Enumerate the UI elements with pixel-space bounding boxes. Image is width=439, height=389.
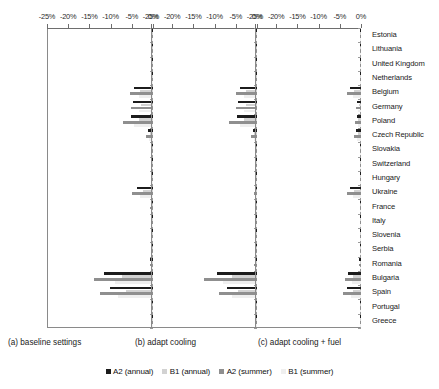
- bar-group: [255, 214, 361, 228]
- country-label: Ukraine: [372, 187, 397, 196]
- bar-group: [255, 285, 361, 299]
- country-label: France: [372, 202, 395, 211]
- figure-root: -25%-20%-15%-10%-5%0% -25%-20%-15%-10%-5…: [0, 0, 439, 389]
- country-label: Portugal: [372, 302, 399, 311]
- bar: [358, 110, 361, 113]
- country-label: Bulgaria: [372, 273, 399, 282]
- bar-group: [151, 157, 257, 171]
- bar-group: [47, 257, 153, 271]
- bar-group: [255, 28, 361, 42]
- legend-label: B1 (annual): [170, 367, 210, 376]
- legend-item: B1 (annual): [162, 367, 210, 376]
- bar-group: [47, 42, 153, 56]
- bar-group: [255, 42, 361, 56]
- legend-swatch-icon: [162, 369, 167, 374]
- legend-item: B1 (summer): [281, 367, 334, 376]
- bar-group: [151, 128, 257, 142]
- bar: [115, 281, 153, 284]
- category-tick: [150, 328, 153, 329]
- bar: [352, 281, 361, 284]
- bar: [360, 310, 361, 313]
- legend-label: A2 (annual): [113, 367, 153, 376]
- bar-group: [47, 57, 153, 71]
- bar-group: [47, 114, 153, 128]
- x-axis-tick-label: -15%: [81, 12, 97, 21]
- bar: [360, 67, 361, 70]
- bar-group: [151, 85, 257, 99]
- bar-group: [151, 114, 257, 128]
- legend-swatch-icon: [219, 369, 224, 374]
- legend-item: A2 (annual): [106, 367, 154, 376]
- country-axis-labels: EstoniaLithuaniaUnited KingdomNetherland…: [372, 28, 439, 328]
- bar-group: [47, 299, 153, 313]
- bar-group: [151, 57, 257, 71]
- country-label: Estonia: [372, 30, 397, 39]
- bar-group: [255, 128, 361, 142]
- country-label: Spain: [372, 287, 391, 296]
- x-axis-tick-label: -25%: [143, 12, 159, 21]
- country-label: Hungary: [372, 173, 400, 182]
- bar: [357, 138, 361, 141]
- bar: [360, 253, 361, 256]
- bar: [360, 238, 361, 241]
- bar-group: [151, 214, 257, 228]
- bar-group: [151, 185, 257, 199]
- bar-group: [255, 142, 361, 156]
- bar-group: [47, 285, 153, 299]
- bar-group: [47, 171, 153, 185]
- x-axis-tick-label: -15%: [289, 12, 305, 21]
- bar-group: [47, 214, 153, 228]
- country-label: Poland: [372, 116, 395, 125]
- bar-group: [151, 299, 257, 313]
- bar-group: [47, 128, 153, 142]
- bar-group: [255, 299, 361, 313]
- bar: [351, 295, 361, 298]
- caption-panel-b: (b) adapt cooling: [135, 338, 196, 347]
- bar: [360, 181, 361, 184]
- country-label: Romania: [372, 259, 402, 268]
- bar-group: [47, 157, 153, 171]
- x-axis-tick-label: -5%: [126, 12, 139, 21]
- bar-group: [47, 199, 153, 213]
- panel-baseline-settings: -25%-20%-15%-10%-5%0%: [47, 28, 153, 328]
- country-label: Serbia: [372, 244, 393, 253]
- bar: [232, 295, 257, 298]
- country-label: Belgium: [372, 87, 399, 96]
- category-tick: [358, 328, 361, 329]
- bar-group: [151, 257, 257, 271]
- bar-group: [255, 171, 361, 185]
- x-axis-tick-label: -20%: [164, 12, 180, 21]
- bar: [360, 53, 361, 56]
- bar-group: [151, 28, 257, 42]
- country-label: United Kingdom: [372, 59, 425, 68]
- bar: [360, 38, 361, 41]
- bar-group: [255, 157, 361, 171]
- category-tick: [254, 328, 257, 329]
- panel-adapt-cooling-fuel: -25%-20%-15%-10%-5%0%: [255, 28, 361, 328]
- bar: [223, 281, 257, 284]
- x-axis-tick-label: -10%: [102, 12, 118, 21]
- bar-group: [255, 199, 361, 213]
- legend-label: A2 (summer): [227, 367, 272, 376]
- bar: [360, 81, 361, 84]
- bar-group: [255, 71, 361, 85]
- bar-group: [255, 57, 361, 71]
- x-axis-tick-label: -20%: [268, 12, 284, 21]
- bar: [353, 195, 361, 198]
- country-label: Switzerland: [372, 159, 410, 168]
- bar: [358, 124, 361, 127]
- bar-group: [151, 271, 257, 285]
- bar-group: [47, 71, 153, 85]
- bar-group: [151, 242, 257, 256]
- bar-group: [255, 85, 361, 99]
- bar-group: [47, 28, 153, 42]
- legend-label: B1 (summer): [288, 367, 333, 376]
- bar-group: [151, 228, 257, 242]
- bar-group: [47, 185, 153, 199]
- country-label: Greece: [372, 316, 396, 325]
- bar: [360, 224, 361, 227]
- bar: [118, 295, 153, 298]
- bar-group: [255, 314, 361, 328]
- x-axis-tick-label: -10%: [206, 12, 222, 21]
- bar: [353, 95, 361, 98]
